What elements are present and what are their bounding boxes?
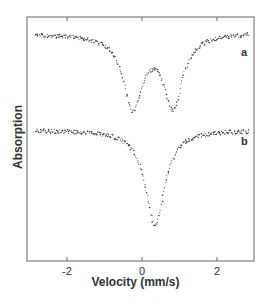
axis-ticks xyxy=(67,17,217,261)
series-b-points xyxy=(35,128,249,226)
y-axis-label: Absorption xyxy=(11,97,25,177)
x-axis-label: Velocity (mm/s) xyxy=(0,275,271,289)
series-label-b: b xyxy=(241,135,248,147)
plot-frame xyxy=(27,17,254,261)
series-label-a: a xyxy=(241,46,247,58)
mossbauer-spectrum-chart xyxy=(0,0,271,305)
series-a-points xyxy=(35,32,250,113)
